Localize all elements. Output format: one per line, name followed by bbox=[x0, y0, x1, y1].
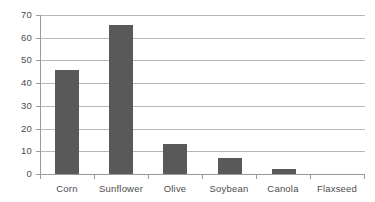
x-axis-label-soybean: Soybean bbox=[210, 183, 249, 194]
x-tick-1 bbox=[94, 175, 95, 179]
x-tick-2 bbox=[148, 175, 149, 179]
y-axis-label-40: 40 bbox=[2, 78, 32, 88]
x-axis-label-sunflower: Sunflower bbox=[99, 183, 143, 194]
bar-olive[interactable] bbox=[163, 144, 187, 174]
bar-chart: 70 60 50 40 30 20 10 0 Corn Sunflower Ol… bbox=[0, 0, 375, 202]
y-axis-label-70: 70 bbox=[2, 10, 32, 20]
bar-corn[interactable] bbox=[55, 70, 79, 174]
y-axis-label-50: 50 bbox=[2, 55, 32, 65]
x-tick-4 bbox=[256, 175, 257, 179]
bar-soybean[interactable] bbox=[218, 158, 242, 174]
x-tick-3 bbox=[202, 175, 203, 179]
y-axis-label-10: 10 bbox=[2, 146, 32, 156]
y-axis-label-30: 30 bbox=[2, 101, 32, 111]
x-axis-label-olive: Olive bbox=[164, 183, 187, 194]
bar-sunflower[interactable] bbox=[109, 25, 133, 174]
x-tick-6 bbox=[364, 175, 365, 179]
x-tick-5 bbox=[310, 175, 311, 179]
x-axis-label-canola: Canola bbox=[267, 183, 298, 194]
y-axis-label-60: 60 bbox=[2, 33, 32, 43]
x-axis-label-flaxseed: Flaxseed bbox=[317, 183, 357, 194]
y-axis-label-20: 20 bbox=[2, 124, 32, 134]
x-tick-0 bbox=[40, 175, 41, 179]
x-axis-label-corn: Corn bbox=[56, 183, 77, 194]
bars-layer bbox=[40, 15, 365, 174]
y-axis-label-0: 0 bbox=[2, 169, 32, 179]
